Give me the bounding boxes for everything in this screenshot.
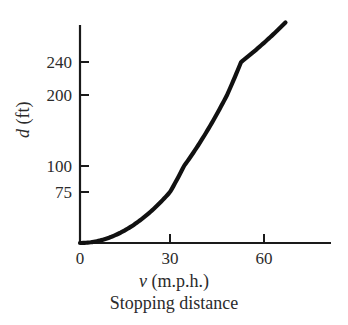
y-tick-marks [80,62,89,192]
x-tick-label-0: 0 [76,250,85,267]
figure-caption: Stopping distance [0,294,348,312]
y-axis-units: (ft) [13,102,33,129]
y-tick-label-100: 100 [26,158,72,175]
y-tick-label-75: 75 [26,184,72,201]
y-axis-title: d (ft) [14,102,32,138]
stopping-distance-figure: 240 200 100 75 0 30 60 d (ft) v (m.p.h.)… [0,0,348,325]
x-axis-title: v (m.p.h.) [0,272,348,290]
stopping-distance-curve [80,23,285,243]
x-axis-variable: v [139,271,147,291]
y-axis-variable: d [13,129,33,138]
x-tick-label-30: 30 [162,250,179,267]
x-tick-marks [170,234,264,243]
x-tick-label-60: 60 [256,250,273,267]
x-axis-units: (m.p.h.) [147,271,209,291]
y-tick-label-240: 240 [26,54,72,71]
